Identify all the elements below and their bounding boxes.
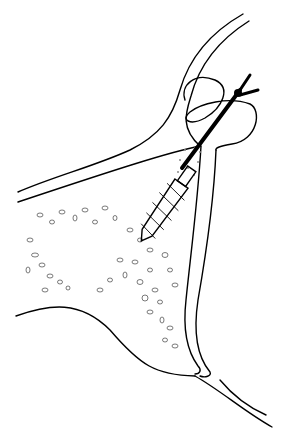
anatomy-illustration (0, 0, 291, 440)
illustration-canvas (0, 0, 291, 440)
right-wall-inner (185, 146, 201, 374)
right-wall-outer (196, 150, 216, 377)
lower-cortex (16, 307, 195, 376)
tail-line-1 (195, 376, 272, 427)
cancellous-bone-texture (26, 206, 178, 348)
threaded-implant (131, 161, 203, 248)
